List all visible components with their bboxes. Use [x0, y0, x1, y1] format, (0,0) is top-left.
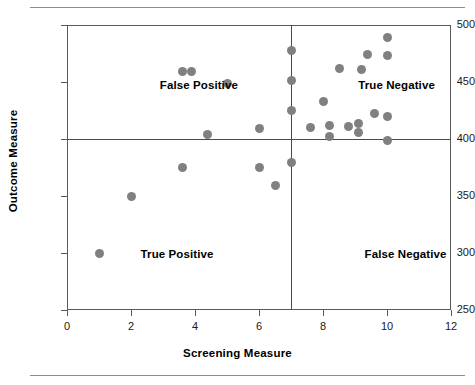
- y-tick-mark: [61, 196, 67, 197]
- data-point: [335, 64, 344, 73]
- x-tick-label: 10: [367, 321, 407, 332]
- data-point: [287, 158, 296, 167]
- data-point: [255, 163, 264, 172]
- x-tick-label: 12: [431, 321, 471, 332]
- data-point: [255, 124, 264, 133]
- data-point: [383, 51, 392, 60]
- data-point: [287, 106, 296, 115]
- scatter-plot-figure: 250300350400450500 024681012 False Posit…: [0, 0, 475, 385]
- data-point: [325, 121, 334, 130]
- y-axis-title: Outcome Measure: [7, 96, 19, 226]
- data-point: [95, 249, 104, 258]
- x-tick-mark: [451, 310, 452, 316]
- x-tick-mark: [131, 310, 132, 316]
- data-point: [344, 122, 353, 131]
- x-tick-mark: [67, 310, 68, 316]
- data-point: [306, 123, 315, 132]
- quadrant-label: True Negative: [358, 79, 435, 91]
- y-tick-label: 350: [423, 190, 475, 201]
- data-point: [127, 192, 136, 201]
- x-axis-title: Screening Measure: [0, 347, 475, 359]
- data-point: [354, 119, 363, 128]
- x-tick-mark: [323, 310, 324, 316]
- data-point: [354, 128, 363, 137]
- data-point: [178, 67, 187, 76]
- x-tick-label: 6: [239, 321, 279, 332]
- data-point: [178, 163, 187, 172]
- y-tick-mark: [61, 139, 67, 140]
- data-point: [357, 65, 366, 74]
- x-tick-label: 8: [303, 321, 343, 332]
- data-point: [287, 76, 296, 85]
- x-tick-mark: [387, 310, 388, 316]
- y-tick-label: 250: [423, 304, 475, 315]
- data-point: [383, 33, 392, 42]
- y-tick-label: 400: [423, 133, 475, 144]
- top-divider-rule: [30, 7, 465, 8]
- y-tick-mark: [61, 253, 67, 254]
- x-tick-label: 4: [175, 321, 215, 332]
- screening-cutoff-line: [291, 25, 292, 310]
- data-point: [287, 46, 296, 55]
- x-tick-label: 0: [47, 321, 87, 332]
- y-tick-mark: [61, 25, 67, 26]
- x-tick-mark: [195, 310, 196, 316]
- y-tick-label: 500: [423, 19, 475, 30]
- quadrant-label: False Negative: [365, 248, 447, 260]
- data-point: [383, 112, 392, 121]
- quadrant-label: True Positive: [141, 248, 214, 260]
- x-tick-label: 2: [111, 321, 151, 332]
- quadrant-label: False Positive: [160, 79, 238, 91]
- x-tick-mark: [259, 310, 260, 316]
- data-point: [319, 97, 328, 106]
- outcome-cutoff-line: [67, 139, 451, 140]
- y-tick-mark: [61, 82, 67, 83]
- data-point: [271, 181, 280, 190]
- data-point: [383, 136, 392, 145]
- bottom-divider-rule: [30, 375, 465, 376]
